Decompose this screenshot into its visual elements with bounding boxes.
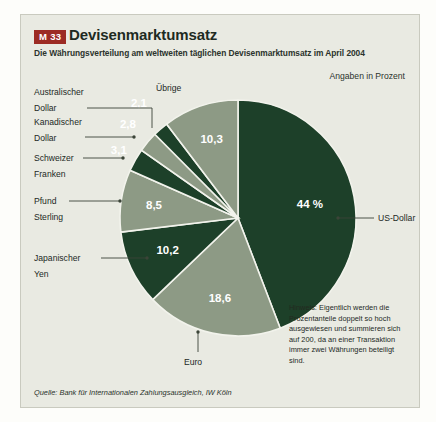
label-pfund-sterling-line2: Sterling (34, 212, 63, 222)
pie-slices (120, 100, 356, 336)
label-schweizer-franken-line2: Franken (34, 169, 66, 179)
pie-slice-value: 8,5 (146, 199, 163, 211)
label-australischer-dollar-line1: Australischer (34, 87, 84, 97)
label-euro: Euro (184, 357, 202, 367)
label-schweizer-franken-line1: Schweizer (34, 153, 74, 163)
infographic-panel: M 33 Devisenmarktumsatz Die Währungsvert… (20, 14, 420, 408)
pie-slice-value: 10,2 (156, 244, 178, 256)
leader-dot-us-dollar (336, 216, 339, 219)
label-pfund-sterling-line1: Pfund (34, 196, 57, 206)
label-japanischer-yen-line2: Yen (34, 269, 49, 279)
leader-dot-kanadischer-dollar (132, 135, 135, 138)
label-kanadischer-dollar-line2: Dollar (34, 133, 57, 143)
pie-slice-value: 18,6 (209, 292, 231, 304)
leader-dot-pfund-sterling (118, 199, 121, 202)
label-us-dollar: US-Dollar (378, 213, 415, 223)
source-line: Quelle: Bank für Internationalen Zahlung… (34, 388, 232, 397)
label-japanischer-yen-line1: Japanischer (34, 253, 80, 263)
pie-slice-value: 2,8 (120, 118, 137, 130)
label-kanadischer-dollar-line1: Kanadischer (34, 117, 82, 127)
label-uebrige: Übrige (156, 83, 182, 93)
leader-dot-japanischer-yen (145, 256, 148, 259)
pie-slice-value: 3,1 (111, 144, 128, 156)
pie-slice-value: 10,3 (200, 133, 222, 145)
label-australischer-dollar-line2: Dollar (34, 103, 57, 113)
pie-slice-value: 2,1 (131, 97, 148, 109)
leader-dot-schweizer-franken (121, 156, 124, 159)
pie-slice-value: 44 % (297, 198, 323, 210)
footnote-hinweis: Hinweis: Eigentlich werden die Prozentan… (289, 303, 411, 366)
leader-dot-euro (196, 330, 199, 333)
